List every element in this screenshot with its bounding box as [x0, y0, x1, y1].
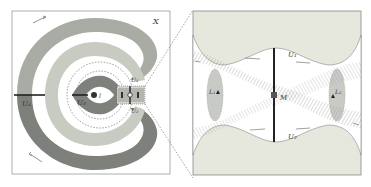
label-u1-left: U₁: [131, 76, 138, 83]
label-l2: L₂: [334, 88, 342, 95]
space-label-x: X: [152, 17, 159, 26]
label-u2-right: U₂: [288, 133, 297, 141]
m-point-right: [271, 92, 277, 98]
l-point: [91, 92, 97, 98]
label-m: M: [279, 94, 288, 102]
label-l: l: [99, 92, 101, 99]
l2-marker-left: [137, 92, 139, 98]
l2-ellipse: [329, 69, 345, 121]
m-point-left: [128, 93, 132, 97]
label-u4: U₄: [22, 100, 31, 108]
label-u2-left: U₂: [131, 107, 139, 114]
left-panel: X U₄ U₃ l U₁ U₂: [12, 11, 170, 174]
label-u1-right: U₁: [288, 51, 297, 59]
label-l1: L₁: [208, 88, 215, 95]
label-u3: U₃: [77, 99, 86, 107]
diagram-canvas: X U₄ U₃ l U₁ U₂: [0, 0, 371, 187]
l1-ellipse: [207, 69, 223, 121]
right-panel: U₁ U₂ M L₁ L₂: [193, 11, 361, 175]
l1-marker-left: [121, 92, 123, 98]
